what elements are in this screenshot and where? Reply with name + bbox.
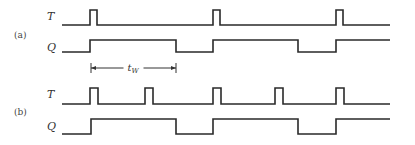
signal-label-q: Q — [47, 120, 56, 133]
panel-a: (a) T Q tW — [14, 10, 390, 75]
timing-diagram: (a) T Q tW (b) T Q — [0, 0, 415, 145]
panel-a-label: (a) — [14, 30, 26, 40]
pulse-width-annotation: tW — [91, 62, 176, 75]
waveform-q — [62, 119, 390, 134]
arrowhead-left-icon — [91, 66, 96, 70]
signal-label-q: Q — [47, 41, 56, 54]
pulse-width-label: tW — [128, 62, 140, 75]
signal-label-t: T — [47, 10, 56, 23]
pulse-width-subscript: W — [132, 67, 140, 75]
arrowhead-right-icon — [171, 66, 176, 70]
waveform-t — [62, 10, 390, 25]
signal-label-t: T — [47, 88, 56, 101]
panel-b: (b) T Q — [14, 88, 390, 134]
waveform-t — [62, 88, 390, 104]
waveform-q — [62, 40, 390, 52]
panel-b-label: (b) — [14, 107, 27, 117]
